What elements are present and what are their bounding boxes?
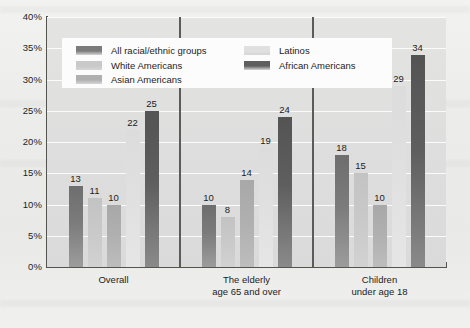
- bar: [145, 111, 159, 267]
- bar-value-label: 15: [348, 160, 374, 171]
- bar-value-label: 8: [215, 204, 241, 215]
- y-axis-tick-label: 0%: [8, 261, 42, 272]
- bar: [354, 173, 368, 267]
- legend-item: White Americans: [76, 59, 207, 73]
- legend-label: Latinos: [279, 46, 310, 56]
- chart-legend: All racial/ethnic groupsWhite AmericansA…: [62, 38, 392, 88]
- bar-value-label: 18: [329, 142, 355, 153]
- bar-value-label: 24: [272, 104, 298, 115]
- bar-value-label: 25: [139, 98, 165, 109]
- legend-item: All racial/ethnic groups: [76, 44, 207, 58]
- bar: [126, 130, 140, 268]
- legend-swatch-icon: [76, 46, 102, 55]
- scan-bleed-artifact: [0, 6, 470, 13]
- chart-page: Percentage 13111022251081419241815102934…: [0, 0, 470, 328]
- bar-value-label: 13: [63, 173, 89, 184]
- bar: [278, 117, 292, 267]
- bar: [221, 217, 235, 267]
- legend-swatch-icon: [244, 61, 270, 70]
- legend-swatch-icon: [76, 61, 102, 70]
- bar-value-label: 34: [405, 42, 431, 53]
- bar-value-label: 10: [196, 192, 222, 203]
- y-axis-tick-label: 30%: [8, 74, 42, 85]
- bar-value-label: 14: [234, 167, 260, 178]
- legend-label: African Americans: [279, 61, 356, 71]
- scan-bleed-artifact: [0, 300, 470, 307]
- y-axis-tick-label: 10%: [8, 199, 42, 210]
- x-axis-category-label: Childrenunder age 18: [300, 274, 460, 297]
- legend-column-right: LatinosAfrican Americans: [244, 44, 356, 73]
- gridline: [47, 17, 446, 18]
- legend-item: Asian Americans: [76, 73, 207, 87]
- legend-label: All racial/ethnic groups: [111, 46, 207, 56]
- bar: [411, 55, 425, 268]
- gridline: [47, 142, 446, 143]
- bar: [107, 205, 121, 268]
- bar-value-label: 10: [101, 192, 127, 203]
- legend-swatch-icon: [244, 46, 270, 55]
- y-axis-tick-label: 20%: [8, 136, 42, 147]
- bar: [373, 205, 387, 268]
- bar: [69, 186, 83, 267]
- legend-swatch-icon: [76, 75, 102, 84]
- bar: [202, 205, 216, 268]
- y-axis-tick-label: 5%: [8, 230, 42, 241]
- legend-item: African Americans: [244, 59, 356, 73]
- bar-value-label: 19: [253, 135, 279, 146]
- bar: [88, 198, 102, 267]
- y-axis-tick-label: 25%: [8, 105, 42, 116]
- legend-label: Asian Americans: [111, 75, 182, 85]
- y-axis-tick-label: 15%: [8, 167, 42, 178]
- bar: [259, 148, 273, 267]
- bar: [335, 155, 349, 268]
- bar: [392, 86, 406, 267]
- y-axis-tick-label: 40%: [8, 11, 42, 22]
- legend-item: Latinos: [244, 44, 356, 58]
- y-axis-tick-label: 35%: [8, 42, 42, 53]
- bar-value-label: 22: [120, 117, 146, 128]
- bar: [240, 180, 254, 268]
- gridline: [47, 111, 446, 112]
- legend-label: White Americans: [111, 61, 182, 71]
- legend-column-left: All racial/ethnic groupsWhite AmericansA…: [76, 44, 207, 88]
- bar-value-label: 10: [367, 192, 393, 203]
